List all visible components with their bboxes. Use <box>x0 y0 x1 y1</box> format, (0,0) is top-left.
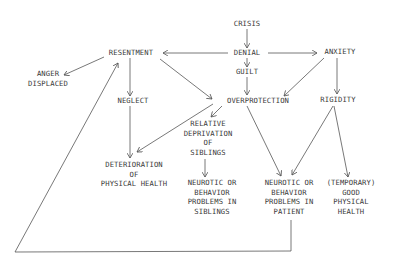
node-neurotic-patient-line3: PROBLEMS IN <box>265 197 314 207</box>
node-neurotic-patient-line1: NEUROTIC OR <box>265 178 314 188</box>
node-good-health-line4: HEALTH <box>327 207 376 217</box>
node-relative-deprivation-line2: DEPRIVATION <box>184 129 233 139</box>
node-good-health-line3: PHYSICAL <box>327 197 376 207</box>
node-deterioration-line1: DETERIORATION <box>101 160 167 170</box>
node-neurotic-siblings-line4: SIBLINGS <box>188 207 237 217</box>
node-neurotic-siblings-line2: BEHAVIOR <box>188 188 237 198</box>
node-neglect: NEGLECT <box>118 96 149 106</box>
node-overprotection: OVERPROTECTION <box>227 96 289 106</box>
node-anxiety: ANXIETY <box>325 47 356 57</box>
node-neurotic-patient-line4: PATIENT <box>265 207 314 217</box>
node-neurotic-siblings-line3: PROBLEMS IN <box>188 197 237 207</box>
node-anger-displaced: ANGER DISPLACED <box>28 69 68 88</box>
flow-diagram: CRISIS DENIAL GUILT ANXIETY RESENTMENT A… <box>0 0 393 266</box>
node-denial: DENIAL <box>234 48 261 58</box>
node-neurotic-patient-line2: BEHAVIOR <box>265 188 314 198</box>
node-rigidity: RIGIDITY <box>320 95 355 105</box>
node-good-physical-health: (TEMPORARY) GOOD PHYSICAL HEALTH <box>327 178 376 216</box>
node-neurotic-siblings-line1: NEUROTIC OR <box>188 178 237 188</box>
node-relative-deprivation-line1: RELATIVE <box>184 119 233 129</box>
node-overprotection-label: OVERPROTECTION <box>227 96 289 106</box>
node-relative-deprivation-line4: SIBLINGS <box>184 148 233 158</box>
node-crisis: CRISIS <box>234 19 261 29</box>
node-deterioration-line2: OF <box>101 170 167 180</box>
node-good-health-line2: GOOD <box>327 188 376 198</box>
node-relative-deprivation: RELATIVE DEPRIVATION OF SIBLINGS <box>184 119 233 157</box>
node-relative-deprivation-line3: OF <box>184 138 233 148</box>
node-neurotic-siblings: NEUROTIC OR BEHAVIOR PROBLEMS IN SIBLING… <box>188 178 237 216</box>
node-resentment: RESENTMENT <box>109 48 153 58</box>
node-guilt-label: GUILT <box>236 67 258 77</box>
node-crisis-label: CRISIS <box>234 19 261 29</box>
node-neglect-label: NEGLECT <box>118 96 149 106</box>
node-neurotic-patient: NEUROTIC OR BEHAVIOR PROBLEMS IN PATIENT <box>265 178 314 216</box>
node-anxiety-label: ANXIETY <box>325 47 356 57</box>
node-good-health-line1: (TEMPORARY) <box>327 178 376 188</box>
node-deterioration-line3: PHYSICAL HEALTH <box>101 179 167 189</box>
node-anger-displaced-line1: ANGER <box>28 69 68 79</box>
node-resentment-label: RESENTMENT <box>109 48 153 58</box>
node-anger-displaced-line2: DISPLACED <box>28 79 68 89</box>
node-deterioration: DETERIORATION OF PHYSICAL HEALTH <box>101 160 167 189</box>
node-guilt: GUILT <box>236 67 258 77</box>
node-denial-label: DENIAL <box>234 48 261 58</box>
node-rigidity-label: RIGIDITY <box>320 95 355 105</box>
